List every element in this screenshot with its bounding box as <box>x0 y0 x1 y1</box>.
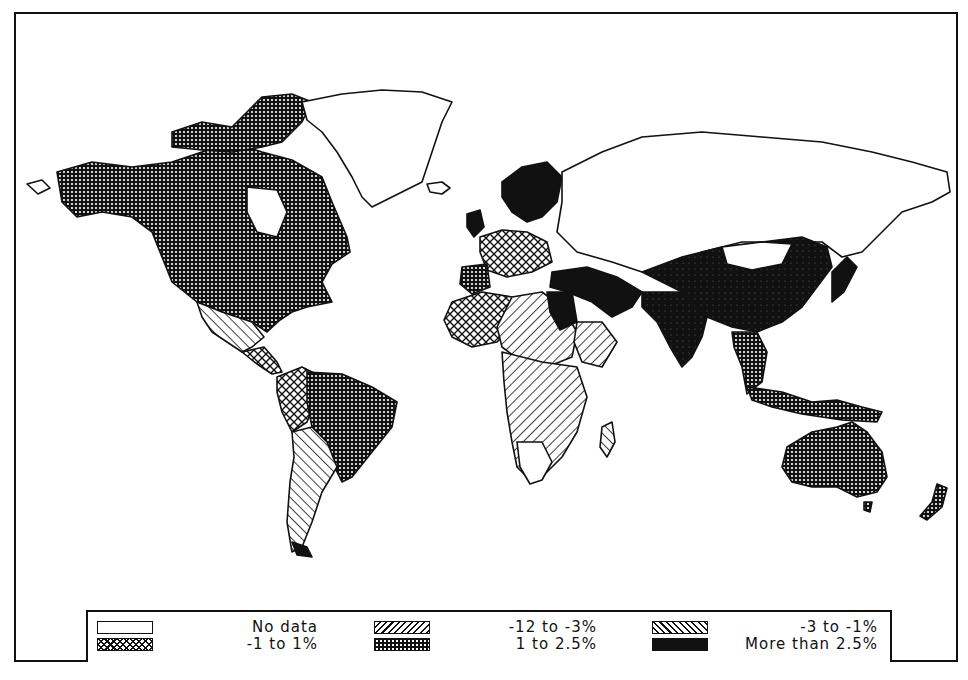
region-aleutian <box>27 180 50 194</box>
legend-label-pos1-pos25: 1 to 2.5% <box>516 637 597 652</box>
region-iberia <box>460 264 490 294</box>
region-western-europe <box>480 230 552 277</box>
legend-swatch-pos1-pos25 <box>374 638 430 651</box>
region-iceland <box>427 182 450 194</box>
region-scandinavia <box>502 162 562 222</box>
region-north-america <box>57 142 350 332</box>
region-indonesia <box>747 387 882 422</box>
legend-label-no-data: No data <box>252 620 318 635</box>
region-central-america <box>242 347 282 374</box>
legend-label-neg3-neg1: -3 to -1% <box>800 620 878 635</box>
region-uk <box>467 210 484 237</box>
region-japan <box>832 257 857 302</box>
region-australia <box>782 422 887 497</box>
legend-swatch-neg12-neg3 <box>374 621 430 634</box>
legend-label-neg1-pos1: -1 to 1% <box>247 637 318 652</box>
region-new-zealand <box>920 484 947 520</box>
legend-swatch-neg1-pos1 <box>97 638 153 651</box>
legend-swatch-no-data <box>97 621 153 634</box>
map-legend: No data -12 to -3% -3 to -1% -1 to 1% 1 … <box>86 610 892 662</box>
region-southeast-asia <box>732 332 767 394</box>
region-madagascar <box>600 422 615 457</box>
legend-label-neg12-neg3: -12 to -3% <box>509 620 597 635</box>
region-arctic-islands <box>172 94 312 152</box>
legend-swatch-pos25-plus <box>652 638 708 651</box>
legend-swatch-neg3-neg1 <box>652 621 708 634</box>
map-frame <box>14 12 958 662</box>
world-map <box>16 14 956 660</box>
region-tasmania <box>864 502 872 512</box>
legend-label-pos25-plus: More than 2.5% <box>745 637 878 652</box>
region-horn <box>574 322 617 367</box>
